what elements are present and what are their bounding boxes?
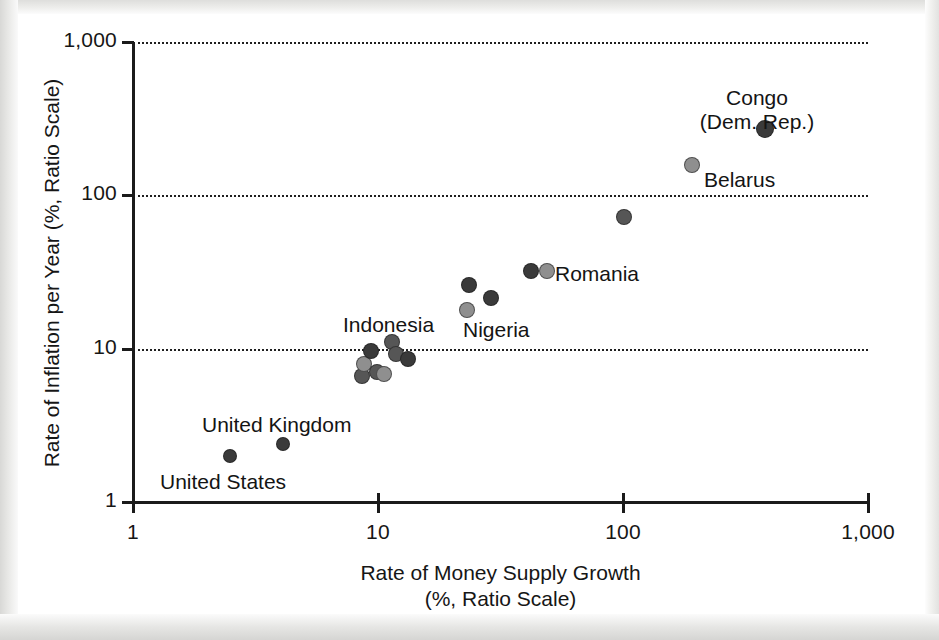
annotation-romania: Romania: [555, 262, 639, 286]
data-point-united-states: [223, 449, 237, 463]
data-point-united-kingdom: [276, 437, 290, 451]
data-point-6: [376, 366, 392, 382]
figure-page: 1101001,0001101001,000Rate of Money Supp…: [0, 0, 939, 640]
data-point-15: [616, 209, 632, 225]
x-tick-label-1000: 1,000: [808, 520, 928, 544]
annotation-united-kingdom: United Kingdom: [202, 413, 351, 437]
x-tick-label-10: 10: [318, 520, 438, 544]
x-tick-1000: [867, 493, 870, 513]
annotation-indonesia: Indonesia: [343, 313, 434, 337]
x-axis-line: [133, 501, 870, 504]
data-point-11: [461, 277, 477, 293]
data-point-romania: [539, 263, 555, 279]
annotation-congo: Congo: [607, 86, 907, 110]
x-axis-title-line1: Rate of Money Supply Growth: [133, 561, 868, 585]
data-point-belarus: [684, 157, 700, 173]
gridline-y-100: [133, 195, 868, 197]
scatter-plot: 1101001,0001101001,000Rate of Money Supp…: [0, 0, 939, 640]
annotation-united-states: United States: [160, 470, 286, 494]
y-axis-title: Rate of Inflation per Year (%, Ratio Sca…: [40, 38, 64, 508]
y-tick-1000: [122, 41, 134, 44]
data-point-nigeria: [459, 302, 475, 318]
gridline-y-10: [133, 349, 868, 351]
gridline-y-1000: [133, 42, 868, 44]
x-tick-10: [377, 493, 380, 513]
annotation-nigeria: Nigeria: [463, 318, 530, 342]
y-tick-label-100: 100: [81, 181, 117, 205]
data-point-9: [400, 351, 416, 367]
y-tick-100: [122, 194, 134, 197]
x-tick-100: [622, 493, 625, 513]
y-tick-label-1: 1: [105, 488, 117, 512]
y-axis-line: [132, 42, 135, 502]
y-tick-10: [122, 348, 134, 351]
annotation-dem-rep: (Dem. Rep.): [607, 110, 907, 134]
x-tick-label-1: 1: [73, 520, 193, 544]
data-point-12: [483, 290, 499, 306]
x-axis-title-line2: (%, Ratio Scale): [133, 587, 868, 611]
y-tick-label-10: 10: [93, 335, 117, 359]
annotation-belarus: Belarus: [704, 168, 775, 192]
x-tick-1: [132, 493, 135, 513]
y-tick-label-1000: 1,000: [63, 28, 117, 52]
data-point-indonesia: [363, 343, 379, 359]
data-point-13: [523, 263, 539, 279]
x-tick-label-100: 100: [563, 520, 683, 544]
